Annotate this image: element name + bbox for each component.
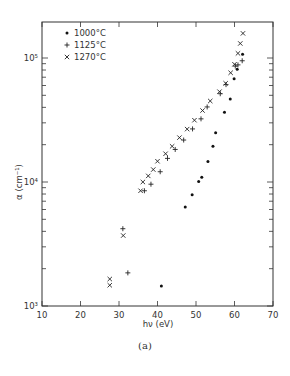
x-tick-label: 20 (75, 310, 86, 320)
data-points (108, 31, 246, 287)
x-tick-label: 10 (37, 310, 48, 320)
svg-text:1000°C: 1000°C (74, 28, 106, 38)
absorption-coefficient-chart: 10³10⁴10⁵ 10203040506070 1000°C1125°C127… (0, 0, 290, 340)
x-tick-label: 60 (229, 310, 240, 320)
x-tick-label: 70 (268, 310, 279, 320)
svg-text:1125°C: 1125°C (74, 40, 106, 50)
svg-text:1270°C: 1270°C (74, 52, 106, 62)
x-axis-label: hν (eV) (143, 319, 174, 329)
y-tick-label: 10⁵ (24, 53, 38, 63)
series-1000c (160, 53, 244, 288)
series-1125c (120, 58, 244, 275)
y-axis-label: α (cm⁻¹) (14, 164, 24, 200)
x-axis: 10203040506070 (37, 22, 279, 320)
y-tick-label: 10⁴ (24, 177, 39, 187)
x-tick-label: 50 (191, 310, 202, 320)
legend-item: 1270°C (65, 52, 106, 62)
figure-caption: (a) (0, 340, 290, 351)
x-tick-label: 30 (114, 310, 125, 320)
legend: 1000°C1125°C1270°C (65, 28, 106, 62)
legend-item: 1125°C (65, 40, 106, 50)
series-1270c (108, 31, 246, 287)
y-axis: 10³10⁴10⁵ (24, 53, 273, 311)
legend-item: 1000°C (66, 28, 106, 38)
